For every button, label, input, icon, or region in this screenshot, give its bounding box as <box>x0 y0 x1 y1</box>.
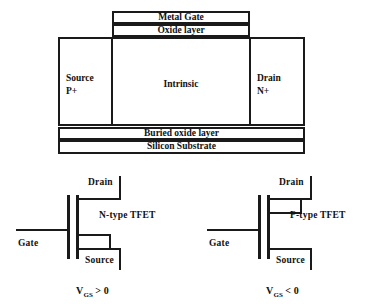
n-drain-lead-vertical <box>119 176 121 199</box>
p-drain-bracket-top <box>269 198 312 200</box>
silicon-substrate-label: Silicon Substrate <box>147 142 216 152</box>
oxide-layer-label: Oxide layer <box>157 26 204 36</box>
p-drain-label: Drain <box>279 177 304 187</box>
intrinsic-drain-divider <box>249 37 251 126</box>
n-gate-bar <box>67 195 70 259</box>
p-drain-lead-vertical <box>310 176 312 199</box>
buried-oxide-layer-label: Buried oxide layer <box>144 129 219 139</box>
n-bias-condition: VGS> 0 <box>76 285 109 299</box>
intrinsic-region-label-line1: Intrinsic <box>113 78 249 91</box>
p-bias-relation: < 0 <box>285 285 299 296</box>
p-source-lead-horizontal <box>269 248 312 250</box>
source-region: Source P+ <box>66 72 110 98</box>
n-source-bracket-bottom <box>78 248 121 250</box>
n-drain-label: Drain <box>88 177 113 187</box>
drain-region-label-line2: N+ <box>257 85 303 98</box>
n-gate-lead <box>16 229 69 231</box>
n-source-lead-vertical <box>119 248 121 270</box>
p-source-lead-vertical <box>310 248 312 270</box>
n-gate-label: Gate <box>18 238 38 248</box>
silicon-substrate-band: Silicon Substrate <box>58 140 305 154</box>
n-source-bracket-top <box>78 234 111 236</box>
source-region-label-line2: P+ <box>66 85 110 98</box>
n-bias-relation: > 0 <box>95 285 109 296</box>
oxide-layer-band: Oxide layer <box>112 24 250 37</box>
n-source-label: Source <box>85 255 114 265</box>
buried-oxide-layer-band: Buried oxide layer <box>58 127 305 140</box>
p-gate-lead <box>207 229 260 231</box>
n-drain-lead-horizontal <box>78 198 121 200</box>
p-gate-label: Gate <box>209 238 229 248</box>
drain-region: Drain N+ <box>257 72 303 98</box>
n-type-tfet-label: N-type TFET <box>99 210 156 220</box>
metal-gate-label: Metal Gate <box>158 13 204 23</box>
p-source-label: Source <box>276 255 305 265</box>
intrinsic-region: Intrinsic <box>113 78 249 91</box>
n-bias-subscript: GS <box>83 291 93 299</box>
drain-region-label-line1: Drain <box>257 72 303 85</box>
p-bias-subscript: GS <box>273 291 283 299</box>
source-region-label-line1: Source <box>66 72 110 85</box>
p-type-tfet-label: P-type TFET <box>290 210 346 220</box>
p-gate-bar <box>258 195 261 259</box>
p-bias-condition: VGS< 0 <box>266 285 299 299</box>
figure-canvas: Metal Gate Oxide layer Source P+ Intrins… <box>0 0 379 306</box>
metal-gate-band: Metal Gate <box>112 11 250 24</box>
